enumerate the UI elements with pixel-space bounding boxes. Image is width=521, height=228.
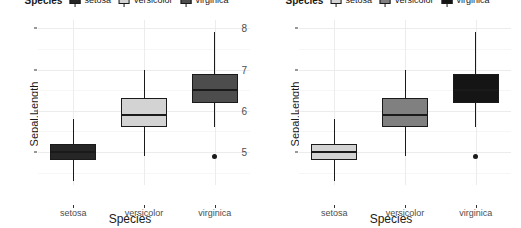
- box-iqr: [121, 98, 167, 127]
- legend-item-label: setosa: [84, 0, 111, 5]
- y-tick-label: 5: [223, 147, 247, 158]
- boxplot-key-icon: [68, 0, 81, 7]
- legend-item-virginica[interactable]: virginica: [179, 0, 228, 7]
- whisker-lower: [405, 127, 406, 156]
- panel-left: Species setosa versicolor: [0, 0, 260, 228]
- boxplot-box-virginica[interactable]: [453, 20, 499, 185]
- whisker-upper: [144, 70, 145, 99]
- whisker-lower: [144, 127, 145, 156]
- y-tick-mark: [295, 152, 298, 153]
- legend-item-versicolor[interactable]: versicolor: [118, 0, 173, 7]
- boxplot-box-setosa[interactable]: [311, 20, 357, 185]
- legend-item-label: versicolor: [395, 0, 434, 5]
- legend-item-setosa[interactable]: setosa: [329, 0, 372, 7]
- median-line: [192, 89, 238, 91]
- x-tick-label: virginica: [459, 208, 492, 218]
- boxplot-box-versicolor[interactable]: [121, 20, 167, 185]
- whisker-upper: [73, 119, 74, 144]
- median-line: [382, 114, 428, 116]
- legend-title: Species: [25, 0, 63, 6]
- x-tick-label: versicolor: [125, 208, 164, 218]
- median-line: [453, 89, 499, 91]
- x-tick-mark: [334, 205, 335, 208]
- whisker-upper: [405, 70, 406, 99]
- boxplot-key-icon: [379, 0, 392, 7]
- boxplot-key-icon: [440, 0, 453, 7]
- legend-item-virginica[interactable]: virginica: [440, 0, 489, 7]
- boxplot-key-icon: [118, 0, 131, 7]
- y-tick-label: 7: [223, 64, 247, 75]
- y-tick-mark: [34, 152, 37, 153]
- x-tick-label: virginica: [198, 208, 231, 218]
- median-line: [311, 151, 357, 153]
- x-tick-label: setosa: [60, 208, 87, 218]
- x-tick-mark: [215, 205, 216, 208]
- y-tick-mark: [34, 28, 37, 29]
- whisker-lower: [475, 103, 476, 128]
- legend-item-versicolor[interactable]: versicolor: [379, 0, 434, 7]
- boxplot-box-virginica[interactable]: [192, 20, 238, 185]
- y-tick-mark: [295, 28, 298, 29]
- legend-title: Species: [286, 0, 324, 6]
- boxplot-key-icon: [329, 0, 342, 7]
- whisker-lower: [214, 103, 215, 128]
- legend-item-label: virginica: [456, 0, 489, 5]
- x-tick-mark: [405, 205, 406, 208]
- box-iqr: [453, 74, 499, 103]
- x-tick-label: versicolor: [386, 208, 425, 218]
- whisker-upper: [334, 119, 335, 144]
- y-tick-mark: [34, 110, 37, 111]
- y-tick-mark: [295, 110, 298, 111]
- x-tick-mark: [73, 205, 74, 208]
- y-tick-label: 6: [223, 105, 247, 116]
- y-tick-label: 8: [223, 23, 247, 34]
- legend-item-label: setosa: [345, 0, 372, 5]
- whisker-upper: [214, 32, 215, 73]
- whisker-upper: [475, 32, 476, 73]
- x-tick-label: setosa: [321, 208, 348, 218]
- y-tick-mark: [295, 69, 298, 70]
- median-line: [121, 114, 167, 116]
- legend-item-label: versicolor: [134, 0, 173, 5]
- plot-area-right: 5678setosaversicolorvirginica: [299, 20, 511, 185]
- x-tick-mark: [476, 205, 477, 208]
- outlier-point[interactable]: [473, 154, 478, 159]
- whisker-lower: [334, 160, 335, 181]
- legend-item-label: virginica: [195, 0, 228, 5]
- legend-item-setosa[interactable]: setosa: [68, 0, 111, 7]
- plot-area-left: 5678setosaversicolorvirginica: [38, 20, 250, 185]
- boxplot-figure: Species setosa versicolor: [0, 0, 521, 228]
- x-tick-mark: [144, 205, 145, 208]
- box-iqr: [382, 98, 428, 127]
- boxplot-box-versicolor[interactable]: [382, 20, 428, 185]
- whisker-lower: [73, 160, 74, 181]
- boxplot-key-icon: [179, 0, 192, 7]
- median-line: [50, 151, 96, 153]
- box-iqr: [192, 74, 238, 103]
- boxplot-box-setosa[interactable]: [50, 20, 96, 185]
- y-tick-mark: [34, 69, 37, 70]
- outlier-point[interactable]: [212, 154, 217, 159]
- legend-left: Species setosa versicolor: [0, 0, 260, 9]
- legend-right: Species setosa versicolor: [261, 0, 521, 9]
- panel-right: Species setosa versicolor: [261, 0, 521, 228]
